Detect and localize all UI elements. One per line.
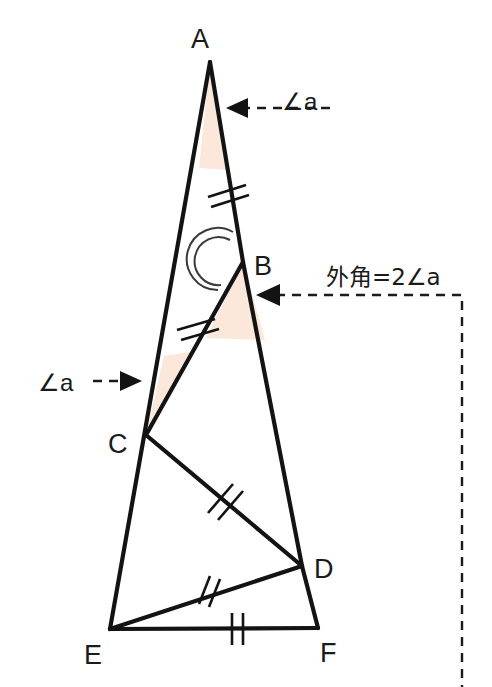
reflex-arc-B [187,228,233,290]
annotation-label-exterior-angle: 外角=2∠a [326,264,441,290]
exterior-angle-arrowhead [256,284,280,306]
angle-a-top-arrowhead [226,98,248,118]
vertex-label-D: D [314,554,334,584]
geometry-figure: A B C D E F ∠a ∠a 外角=2∠a [0,0,492,687]
tick-AB [208,185,249,207]
annotation-label-angle-a-top: ∠a [282,88,318,115]
segment-DE [110,566,302,629]
shaded-angle-regions [146,62,265,435]
vertex-label-F: F [320,638,337,668]
vertex-label-A: A [191,24,209,54]
vertex-label-C: C [108,429,128,459]
reflex-arc-B-inner [195,237,230,285]
segment-ABDF [210,62,318,628]
annotation-label-angle-a-left: ∠a [38,369,74,396]
vertex-label-B: B [254,251,272,281]
segment-EF [110,628,318,629]
figure-canvas: A B C D E F ∠a ∠a 外角=2∠a [0,0,492,687]
tick-DE [199,576,220,607]
annotation-angle-a-left [93,371,142,391]
angle-a-left-arrowhead [120,371,142,391]
vertex-label-E: E [84,640,102,670]
